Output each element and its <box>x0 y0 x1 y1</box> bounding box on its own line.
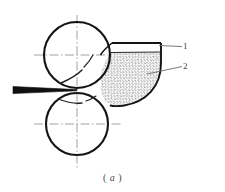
caption-suffix: ) <box>118 172 122 183</box>
powder-material <box>98 50 164 108</box>
figure-container: 1 2 (a) <box>0 0 225 192</box>
label-2: 2 <box>183 62 188 71</box>
powder-surface-line <box>111 52 161 53</box>
caption-item: a <box>107 172 119 183</box>
label-1: 1 <box>183 42 188 51</box>
roll-mill-diagram <box>0 0 225 192</box>
figure-caption: (a) <box>0 172 225 183</box>
leader-line-1 <box>159 46 182 47</box>
